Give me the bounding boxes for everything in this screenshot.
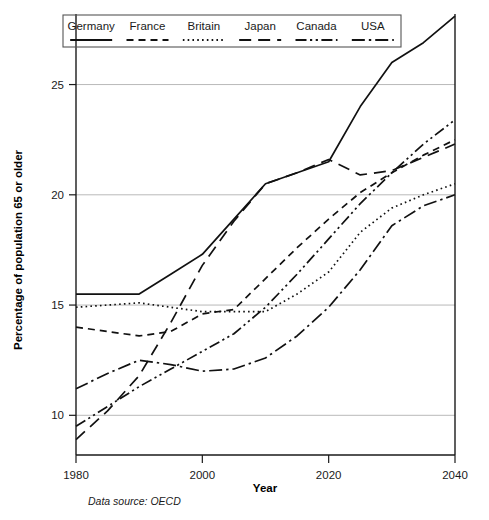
source-note: Data source: OECD — [88, 495, 181, 507]
y-tick-label-20: 20 — [51, 189, 64, 201]
series-line-japan — [76, 144, 455, 439]
series-line-canada — [76, 120, 455, 426]
legend-label-usa: USA — [361, 20, 385, 32]
chart-container: 10152025 1980200020202040 Year Percentag… — [0, 0, 489, 520]
population-aging-line-chart: 10152025 1980200020202040 Year Percentag… — [0, 0, 489, 520]
legend-label-canada: Canada — [296, 20, 337, 32]
x-tick-label-2020: 2020 — [316, 469, 342, 481]
series-lines — [76, 16, 455, 439]
legend-label-britain: Britain — [188, 20, 221, 32]
legend-label-france: France — [130, 20, 166, 32]
x-tick-label-1980: 1980 — [63, 469, 89, 481]
gridlines — [76, 85, 455, 416]
legend: GermanyFranceBritainJapanCanadaUSA — [63, 15, 401, 47]
x-tick-label-2000: 2000 — [190, 469, 216, 481]
series-line-britain — [76, 184, 455, 312]
y-axis-title: Percentage of population 65 or older — [12, 149, 24, 350]
series-line-france — [76, 140, 455, 336]
legend-label-germany: Germany — [68, 20, 116, 32]
legend-label-japan: Japan — [244, 20, 275, 32]
x-tick-label-2040: 2040 — [442, 469, 468, 481]
y-tick-label-15: 15 — [51, 299, 64, 311]
x-axis-ticks: 1980200020202040 — [63, 455, 468, 481]
series-line-germany — [76, 16, 455, 294]
y-axis-ticks: 10152025 — [51, 79, 76, 422]
y-tick-label-10: 10 — [51, 409, 64, 421]
y-tick-label-25: 25 — [51, 79, 64, 91]
x-axis-title: Year — [253, 482, 278, 494]
series-line-usa — [76, 195, 455, 389]
